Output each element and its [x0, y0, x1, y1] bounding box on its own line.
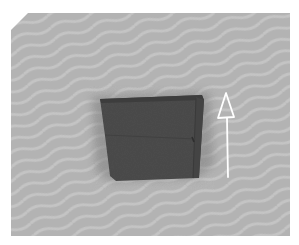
folded-cloth [100, 95, 204, 181]
photo-scene [0, 0, 299, 245]
